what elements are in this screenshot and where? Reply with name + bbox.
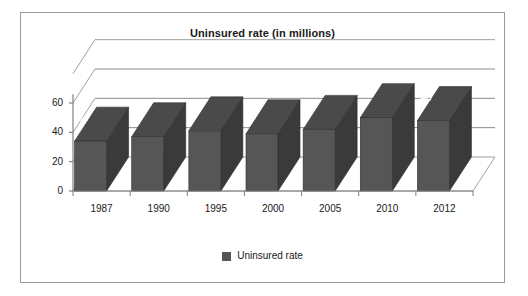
- chart-legend: Uninsured rate: [21, 251, 504, 261]
- y-axis-tick-label: 40: [35, 127, 63, 137]
- x-axis-tick-label: 2010: [359, 204, 415, 214]
- y-axis-tick-label: 20: [35, 157, 63, 167]
- x-axis-tick-label: 1995: [188, 204, 244, 214]
- bar-value-label: 48: [420, 93, 431, 103]
- plot-area: 0204060 1987199019952000200520102012 344…: [21, 13, 506, 284]
- legend-label-uninsured-rate: Uninsured rate: [237, 251, 303, 261]
- bar-chart-3d-canvas: [21, 13, 506, 284]
- x-axis-tick-label: 1990: [131, 204, 187, 214]
- x-axis-tick-label: 2012: [416, 204, 472, 214]
- x-axis-tick-label: 2000: [245, 204, 301, 214]
- chart-frame: Uninsured rate (in millions) 0204060 198…: [20, 12, 505, 283]
- x-axis-tick-label: 2005: [302, 204, 358, 214]
- y-axis-tick-label: 60: [35, 98, 63, 108]
- legend-swatch-uninsured-rate: [222, 252, 231, 261]
- x-axis-tick-label: 1987: [74, 204, 130, 214]
- y-axis-tick-label: 0: [35, 186, 63, 196]
- bar-value-label: 34: [78, 113, 89, 123]
